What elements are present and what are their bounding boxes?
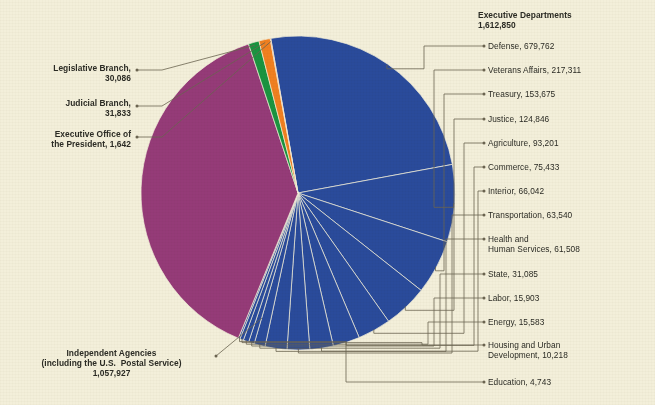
leader-dot-defense: [483, 45, 486, 48]
label-transportation: Transportation, 63,540: [488, 211, 572, 221]
executive-office-value: the President, 1,642: [51, 139, 131, 149]
label-legislative-branch: Legislative Branch,30,086: [8, 64, 131, 84]
pie-chart-figure: Executive Departments1,612,850 Defense, …: [0, 0, 655, 405]
label-justice: Justice, 124,846: [488, 115, 549, 125]
label-veterans-affairs: Veterans Affairs, 217,311: [488, 66, 581, 76]
leader-dot-health-and-human-services: [483, 238, 486, 241]
leader-dot-independent-agencies: [215, 355, 218, 358]
leader-dot-executive-office-of-the-president: [136, 136, 139, 139]
label-treasury: Treasury, 153,675: [488, 90, 555, 100]
leader-dot-interior: [483, 190, 486, 193]
label-interior: Interior, 66,042: [488, 187, 544, 197]
label-independent-agencies: Independent Agencies(including the U.S. …: [10, 349, 213, 379]
leader-dot-judicial-branch: [136, 105, 139, 108]
leader-dot-justice: [483, 118, 486, 121]
leader-defense: [387, 46, 484, 69]
independent-agencies-note: (including the U.S. Postal Service): [41, 358, 181, 368]
judicial-branch-value: 31,833: [105, 108, 131, 118]
leader-dot-state: [483, 273, 486, 276]
judicial-branch-name: Judicial Branch,: [66, 98, 132, 108]
leader-dot-education: [483, 381, 486, 384]
independent-agencies-value: 1,057,927: [93, 368, 131, 378]
label-labor: Labor, 15,903: [488, 294, 539, 304]
label-agriculture: Agriculture, 93,201: [488, 139, 559, 149]
label-executive-office-of-the-president: Executive Office ofthe President, 1,642: [8, 130, 131, 150]
label-defense: Defense, 679,762: [488, 42, 554, 52]
legislative-branch-name: Legislative Branch,: [53, 63, 131, 73]
leader-dot-agriculture: [483, 142, 486, 145]
label-commerce: Commerce, 75,433: [488, 163, 559, 173]
label-judicial-branch: Judicial Branch,31,833: [8, 99, 131, 119]
executive-office-name: Executive Office of: [55, 129, 131, 139]
label-state: State, 31,085: [488, 270, 538, 280]
leader-dot-legislative-branch: [136, 69, 139, 72]
independent-agencies-name: Independent Agencies: [66, 348, 156, 358]
leader-dot-labor: [483, 297, 486, 300]
executive-departments-total: 1,612,850: [478, 20, 516, 30]
leader-dot-commerce: [483, 166, 486, 169]
leader-dot-energy: [483, 321, 486, 324]
leader-dot-treasury: [483, 93, 486, 96]
leader-dot-transportation: [483, 214, 486, 217]
legislative-branch-value: 30,086: [105, 73, 131, 83]
label-energy: Energy, 15,583: [488, 318, 544, 328]
leader-dot-veterans-affairs: [483, 69, 486, 72]
group-label-executive-departments: Executive Departments1,612,850: [478, 11, 572, 31]
executive-departments-title: Executive Departments: [478, 10, 572, 20]
label-education: Education, 4,743: [488, 378, 551, 388]
leader-dot-housing-and-urban-development: [483, 344, 486, 347]
label-health-and-human-services: Health and Human Services, 61,508: [488, 235, 580, 255]
pie-slices: [141, 36, 455, 350]
label-housing-and-urban-development: Housing and Urban Development, 10,218: [488, 341, 568, 361]
